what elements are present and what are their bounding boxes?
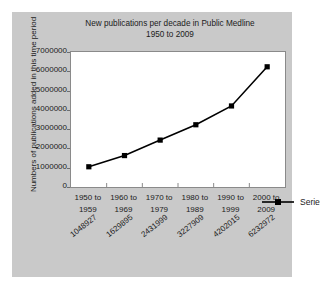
y-tick-label: 7000000 xyxy=(15,46,67,55)
y-tick-label: 4000000 xyxy=(15,104,67,113)
x-axis-value-labels: 1048927162989524319993227909420201562329… xyxy=(70,220,294,270)
plot-area: Series 1 xyxy=(70,51,286,188)
series-line-series-1 xyxy=(89,67,267,167)
y-axis-tick-labels: 7000000600000050000004000000300000020000… xyxy=(12,51,67,188)
y-tick-label: 3000000 xyxy=(15,123,67,132)
y-tick-label: 6000000 xyxy=(15,65,67,74)
chart-subtitle: 1950 to 2009 xyxy=(48,29,292,40)
y-tick-label: 0 xyxy=(15,181,67,190)
data-point-marker xyxy=(229,103,234,108)
x-tick-label: 2000 to2009 xyxy=(240,192,292,215)
chart-title: New publications per decade in Public Me… xyxy=(48,18,292,29)
data-point-marker xyxy=(158,138,163,143)
legend-label-series-1: Series 1 xyxy=(300,197,304,207)
data-point-marker xyxy=(265,64,270,69)
y-tick-label: 5000000 xyxy=(15,85,67,94)
x-tick-label-line: 2009 xyxy=(240,204,292,216)
chart-figure: New publications per decade in Public Me… xyxy=(12,12,292,277)
series-plot xyxy=(71,52,285,187)
x-tick-label-line: 2000 to xyxy=(240,192,292,204)
data-point-marker xyxy=(122,153,127,158)
y-tick-label: 1000000 xyxy=(15,162,67,171)
data-point-marker xyxy=(86,164,91,169)
y-tick-label: 2000000 xyxy=(15,142,67,151)
data-point-marker xyxy=(193,122,198,127)
x-axis-tick-labels: 1950 to19591960 to19691970 to19791980 to… xyxy=(70,192,286,218)
